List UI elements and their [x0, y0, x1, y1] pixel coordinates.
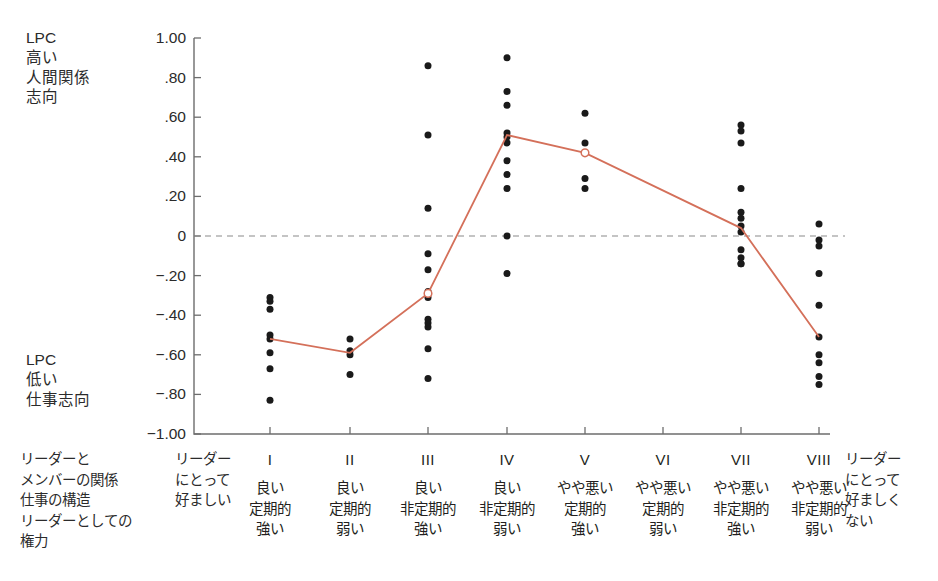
- column-relation-value: 良い: [305, 478, 395, 499]
- data-point: [582, 139, 589, 146]
- data-point: [816, 270, 823, 277]
- data-point: [738, 139, 745, 146]
- column-caption-iv: IV良い非定期的弱い: [462, 449, 552, 540]
- column-power-value: 強い: [383, 519, 473, 540]
- data-point: [816, 373, 823, 380]
- column-roman-numeral: III: [383, 449, 473, 470]
- data-point: [267, 365, 274, 372]
- column-relation-value: やや悪い: [696, 478, 786, 499]
- column-caption-i: I良い定期的強い: [225, 449, 315, 540]
- column-roman-numeral: VI: [618, 449, 708, 470]
- data-point: [816, 381, 823, 388]
- data-point: [504, 233, 511, 240]
- data-point: [425, 266, 432, 273]
- column-relation-value: やや悪い: [618, 478, 708, 499]
- column-power-value: 強い: [225, 519, 315, 540]
- data-point: [425, 324, 432, 331]
- data-point: [425, 205, 432, 212]
- column-power-value: 弱い: [774, 519, 864, 540]
- data-point: [504, 54, 511, 61]
- data-point: [738, 260, 745, 267]
- data-point: [582, 175, 589, 182]
- median-marker: [424, 290, 432, 298]
- factor-row-labels: リーダーと メンバーの関係 仕事の構造 リーダーとしての 権力: [20, 449, 132, 552]
- median-marker: [581, 149, 589, 157]
- data-point: [816, 221, 823, 228]
- data-point: [738, 246, 745, 253]
- data-point: [816, 242, 823, 249]
- column-relation-value: 良い: [462, 478, 552, 499]
- data-point: [582, 185, 589, 192]
- data-point: [738, 128, 745, 135]
- column-caption-vi: VIやや悪い定期的弱い: [618, 449, 708, 540]
- column-structure-value: 非定期的: [462, 499, 552, 520]
- column-structure-value: 定期的: [225, 499, 315, 520]
- column-structure-value: 定期的: [618, 499, 708, 520]
- data-point: [504, 102, 511, 109]
- data-point: [267, 397, 274, 404]
- data-point: [267, 298, 274, 305]
- data-point: [504, 88, 511, 95]
- column-roman-numeral: V: [540, 449, 630, 470]
- column-power-value: 弱い: [618, 519, 708, 540]
- data-point: [504, 185, 511, 192]
- column-relation-value: やや悪い: [774, 478, 864, 499]
- data-point: [267, 349, 274, 356]
- data-point: [504, 171, 511, 178]
- column-structure-value: 非定期的: [383, 499, 473, 520]
- data-point: [504, 270, 511, 277]
- data-point: [504, 157, 511, 164]
- figure-container: LPC 高い 人間関係 志向 LPC 低い 仕事志向 1.00.80.60.40…: [0, 0, 938, 581]
- column-roman-numeral: VII: [696, 449, 786, 470]
- data-point: [425, 62, 432, 69]
- data-point: [738, 185, 745, 192]
- data-point: [738, 215, 745, 222]
- data-point: [816, 302, 823, 309]
- favourable-label: リーダー にとって 好ましい: [175, 449, 231, 511]
- data-point: [425, 132, 432, 139]
- column-relation-value: やや悪い: [540, 478, 630, 499]
- data-point: [347, 335, 354, 342]
- data-point: [816, 351, 823, 358]
- median-trend-line: [270, 135, 819, 353]
- column-power-value: 弱い: [305, 519, 395, 540]
- column-power-value: 強い: [540, 519, 630, 540]
- data-point: [347, 371, 354, 378]
- column-structure-value: 定期的: [305, 499, 395, 520]
- data-point: [582, 110, 589, 117]
- data-point: [425, 250, 432, 257]
- column-power-value: 強い: [696, 519, 786, 540]
- column-caption-ii: II良い定期的弱い: [305, 449, 395, 540]
- column-roman-numeral: IV: [462, 449, 552, 470]
- column-structure-value: 非定期的: [696, 499, 786, 520]
- column-relation-value: 良い: [383, 478, 473, 499]
- column-caption-v: Vやや悪い定期的強い: [540, 449, 630, 540]
- column-caption-iii: III良い非定期的強い: [383, 449, 473, 540]
- column-roman-numeral: I: [225, 449, 315, 470]
- column-roman-numeral: II: [305, 449, 395, 470]
- column-power-value: 弱い: [462, 519, 552, 540]
- column-relation-value: 良い: [225, 478, 315, 499]
- column-caption-viii: VIIIやや悪い非定期的弱い: [774, 449, 864, 540]
- data-point: [816, 359, 823, 366]
- column-structure-value: 非定期的: [774, 499, 864, 520]
- data-point: [267, 306, 274, 313]
- column-roman-numeral: VIII: [774, 449, 864, 470]
- data-point: [425, 375, 432, 382]
- column-caption-vii: VIIやや悪い非定期的強い: [696, 449, 786, 540]
- data-point: [425, 345, 432, 352]
- column-structure-value: 定期的: [540, 499, 630, 520]
